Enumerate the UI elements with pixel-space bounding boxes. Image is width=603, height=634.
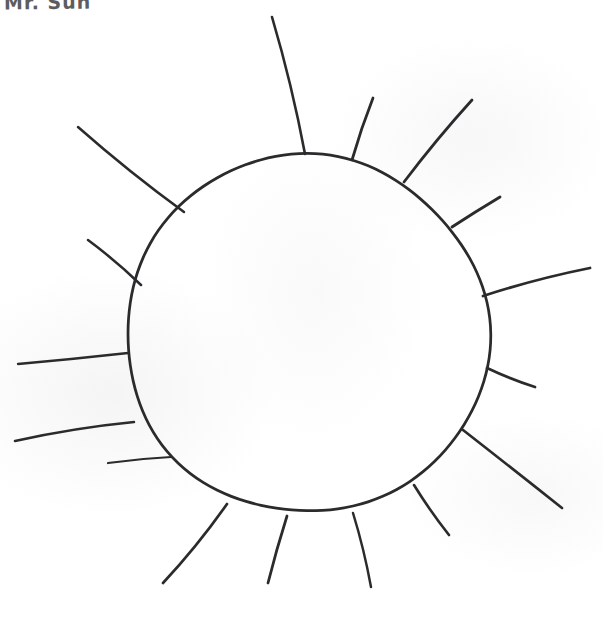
sun-ray [108, 457, 171, 463]
sun-ray [353, 513, 371, 587]
sun-drawing [0, 0, 603, 634]
sun-rays-group [15, 17, 590, 587]
sun-ray [487, 368, 535, 387]
sun-ray [78, 127, 184, 212]
sun-core-group [128, 153, 491, 510]
sun-ray [452, 197, 500, 227]
sun-ray [163, 504, 227, 583]
sun-ray [18, 353, 128, 364]
sun-ray [414, 485, 449, 535]
sun-ray [88, 240, 141, 285]
sun-ray [404, 100, 472, 182]
sun-ray [268, 516, 287, 583]
page-title: Mr. Sun [4, 0, 91, 13]
sun-sketch-page: Mr. Sun hand-drawn pen sketch on white p… [0, 0, 603, 634]
sun-ray [463, 430, 562, 508]
sun-ray [483, 268, 590, 296]
sun-ray [15, 422, 134, 441]
sun-ray [352, 98, 373, 160]
sun-core-circle [128, 153, 491, 510]
sun-ray [272, 17, 305, 154]
